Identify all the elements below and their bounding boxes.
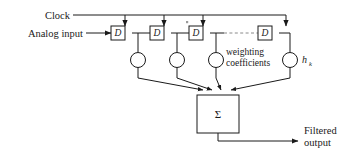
- coefficient-h-subscript: k: [309, 60, 312, 67]
- summer-block: Σ: [197, 95, 239, 133]
- clock-bus: [73, 15, 286, 26]
- weighting-coefficients-label-line2: coefficients: [226, 58, 270, 68]
- delay-block-2: D: [189, 26, 203, 40]
- multiplier-circle-1: [170, 53, 185, 68]
- fir-filter-diagram: D D D D: [0, 0, 354, 152]
- delay-block-label: D: [114, 28, 122, 38]
- sum-line-0: [138, 68, 203, 91]
- multiplier-circle-2: [209, 53, 224, 68]
- multiplier-circle-3: [283, 53, 298, 68]
- filtered-output-label-line2: output: [304, 137, 331, 148]
- output-path: [218, 133, 298, 141]
- analog-input-label: Analog input: [28, 28, 83, 39]
- multiplier-circle-0: [131, 53, 146, 68]
- filtered-output-label-line1: Filtered: [304, 125, 337, 136]
- delay-block-label: D: [261, 28, 269, 38]
- delay-block-3: D: [258, 26, 272, 40]
- sum-line-3: [231, 68, 290, 91]
- delay-block-1: D: [150, 26, 164, 40]
- summing-lines: [138, 68, 290, 91]
- fir-filter-svg: D D D D: [0, 0, 354, 152]
- sum-line-2: [216, 68, 221, 91]
- delay-block-0: D: [111, 26, 125, 40]
- delay-block-label: D: [153, 28, 161, 38]
- clock-label: Clock: [45, 10, 71, 21]
- delay-block-label: D: [192, 28, 200, 38]
- weighting-coefficients-label-line1: weighting: [226, 47, 264, 57]
- summer-symbol: Σ: [215, 108, 221, 120]
- output-line: [218, 133, 298, 141]
- coefficient-h-label: h: [302, 54, 307, 65]
- tick-mark-dot: [186, 21, 188, 23]
- last-tap-drop: [279, 33, 290, 52]
